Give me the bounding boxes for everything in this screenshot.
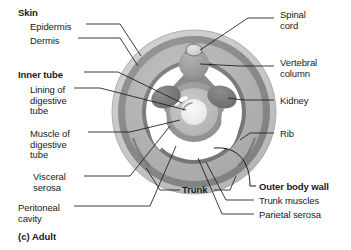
label-trunk-muscles: Trunk muscles bbox=[259, 196, 319, 207]
leader-vertebral-column bbox=[200, 64, 274, 66]
leader-dermis bbox=[78, 38, 138, 66]
label-parietal-serosa: Parietal serosa bbox=[259, 210, 321, 221]
label-skin: Skin bbox=[18, 8, 38, 19]
label-inner-tube: Inner tube bbox=[18, 70, 63, 81]
leader-trunk bbox=[146, 168, 180, 190]
leader-inner-tube bbox=[84, 72, 182, 103]
leader-rib bbox=[240, 133, 274, 140]
figure-canvas: Skin Epidermis Dermis Inner tube Lining … bbox=[0, 0, 351, 250]
label-dermis: Dermis bbox=[30, 36, 59, 47]
label-visceral-serosa: Visceral serosa bbox=[33, 172, 66, 193]
label-trunk: Trunk bbox=[182, 185, 207, 196]
label-rib: Rib bbox=[280, 129, 294, 140]
label-spinal-cord: Spinal cord bbox=[280, 10, 306, 31]
leader-visceral-serosa bbox=[84, 126, 170, 176]
outer-body-wall-bracket bbox=[214, 148, 256, 186]
leader-kidney bbox=[228, 98, 274, 100]
leader-spinal-cord bbox=[200, 18, 274, 50]
label-vertebral-column: Vertebral column bbox=[280, 58, 317, 79]
label-muscle-of-digestive-tube: Muscle of digestive tube bbox=[30, 129, 70, 161]
label-lining-of-digestive-tube: Lining of digestive tube bbox=[30, 85, 67, 117]
figure-caption: (c) Adult bbox=[18, 231, 56, 242]
label-kidney: Kidney bbox=[280, 96, 308, 107]
label-peritoneal-cavity: Peritoneal cavity bbox=[18, 203, 60, 224]
label-outer-body-wall: Outer body wall bbox=[259, 182, 329, 193]
leader-epidermis bbox=[86, 24, 141, 56]
leader-lining bbox=[74, 88, 186, 110]
label-epidermis: Epidermis bbox=[30, 22, 71, 33]
